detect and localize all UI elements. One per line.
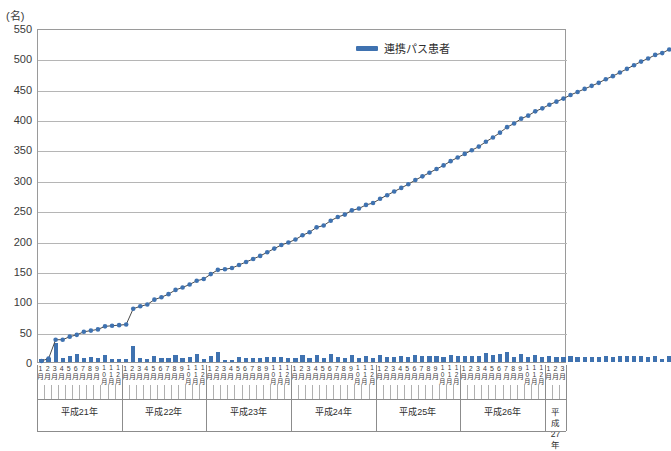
x-axis-tick — [263, 385, 264, 399]
x-axis-tick — [150, 385, 151, 399]
x-axis-tick — [192, 385, 193, 399]
data-point-marker — [455, 155, 460, 160]
y-axis-tick: 100 — [2, 296, 32, 308]
x-axis-tick — [213, 385, 214, 399]
x-axis-tick — [397, 385, 398, 399]
data-point-marker — [385, 193, 390, 198]
x-axis-tick — [319, 385, 320, 399]
x-axis-tick — [256, 385, 257, 399]
data-point-marker — [173, 288, 178, 293]
x-axis-tick — [495, 385, 496, 399]
legend-swatch-icon — [356, 46, 378, 51]
data-point-marker — [117, 323, 122, 328]
bar — [667, 356, 671, 362]
x-axis-tick — [432, 385, 433, 399]
data-point-marker — [350, 208, 355, 213]
x-axis-tick — [171, 385, 172, 399]
data-point-marker — [293, 237, 298, 242]
data-point-marker — [300, 233, 305, 238]
y-axis-tick: 400 — [2, 114, 32, 126]
bar — [625, 356, 629, 362]
data-point-marker — [201, 277, 206, 282]
data-point-marker — [343, 212, 348, 217]
data-point-marker — [138, 304, 143, 309]
x-axis-tick — [44, 385, 45, 399]
data-point-marker — [469, 148, 474, 153]
data-point-marker — [660, 51, 665, 56]
x-axis-tick — [418, 385, 419, 399]
data-point-marker — [110, 323, 115, 328]
data-point-marker — [484, 139, 489, 144]
series-line — [42, 49, 670, 361]
y-axis-tick: 300 — [2, 175, 32, 187]
data-point-marker — [223, 267, 228, 272]
x-axis-tick — [425, 385, 426, 399]
data-point-marker — [194, 279, 199, 284]
data-point-marker — [561, 96, 566, 101]
data-point-marker — [145, 302, 150, 307]
x-axis-tick — [510, 385, 511, 399]
x-axis-tick — [340, 385, 341, 399]
x-axis-group-baseline — [37, 431, 566, 432]
y-axis-tick: 50 — [2, 327, 32, 339]
data-point-marker — [427, 170, 432, 175]
data-point-marker — [632, 63, 637, 68]
data-point-marker — [519, 116, 524, 121]
y-axis-tick: 200 — [2, 236, 32, 248]
legend-label: 連携パス患者 — [384, 40, 450, 56]
x-axis-tick — [270, 385, 271, 399]
data-point-marker — [420, 174, 425, 179]
bar — [646, 357, 650, 362]
data-point-marker — [39, 359, 44, 364]
x-axis-tick — [178, 385, 179, 399]
data-point-marker — [441, 163, 446, 168]
bar — [583, 357, 587, 362]
data-point-marker — [477, 144, 482, 149]
x-axis-tick — [361, 385, 362, 399]
x-axis-tick — [129, 385, 130, 399]
y-axis-tick: 450 — [2, 84, 32, 96]
x-axis-tick — [115, 385, 116, 399]
data-point-marker — [625, 67, 630, 72]
data-point-marker — [399, 186, 404, 191]
data-point-marker — [533, 109, 538, 114]
x-axis-year-label: 平成 27年 — [550, 407, 561, 451]
y-axis-unit-label: (名) — [6, 7, 24, 23]
data-point-marker — [371, 201, 376, 206]
data-point-marker — [646, 56, 651, 61]
x-axis-year-label: 平成21年 — [61, 407, 98, 418]
data-point-marker — [462, 152, 467, 157]
data-point-marker — [364, 203, 369, 208]
x-axis-tick — [65, 385, 66, 399]
data-point-marker — [596, 81, 601, 86]
x-axis-tick — [404, 385, 405, 399]
data-point-marker — [554, 99, 559, 104]
data-point-marker — [166, 292, 171, 297]
data-point-marker — [413, 178, 418, 183]
x-axis-tick — [227, 385, 228, 399]
x-axis-tick — [488, 385, 489, 399]
data-point-marker — [265, 250, 270, 255]
chart-legend: 連携パス患者 — [356, 40, 450, 56]
data-point-marker — [237, 263, 242, 268]
x-axis-tick — [58, 385, 59, 399]
bar — [618, 356, 622, 362]
data-point-marker — [321, 223, 326, 228]
bar — [604, 356, 608, 362]
x-axis-tick — [249, 385, 250, 399]
data-point-marker — [603, 77, 608, 82]
year-group-separator — [122, 365, 123, 431]
bar — [660, 359, 664, 362]
line-series-layer — [38, 30, 567, 364]
x-axis-tick — [242, 385, 243, 399]
x-axis-tick — [326, 385, 327, 399]
year-group-separator — [206, 365, 207, 431]
data-point-marker — [406, 182, 411, 187]
x-axis-tick — [136, 385, 137, 399]
bar — [632, 356, 636, 362]
x-axis-tick — [164, 385, 165, 399]
data-point-marker — [314, 225, 319, 230]
x-axis-tick — [108, 385, 109, 399]
data-point-marker — [258, 254, 263, 259]
x-axis-tick — [383, 385, 384, 399]
